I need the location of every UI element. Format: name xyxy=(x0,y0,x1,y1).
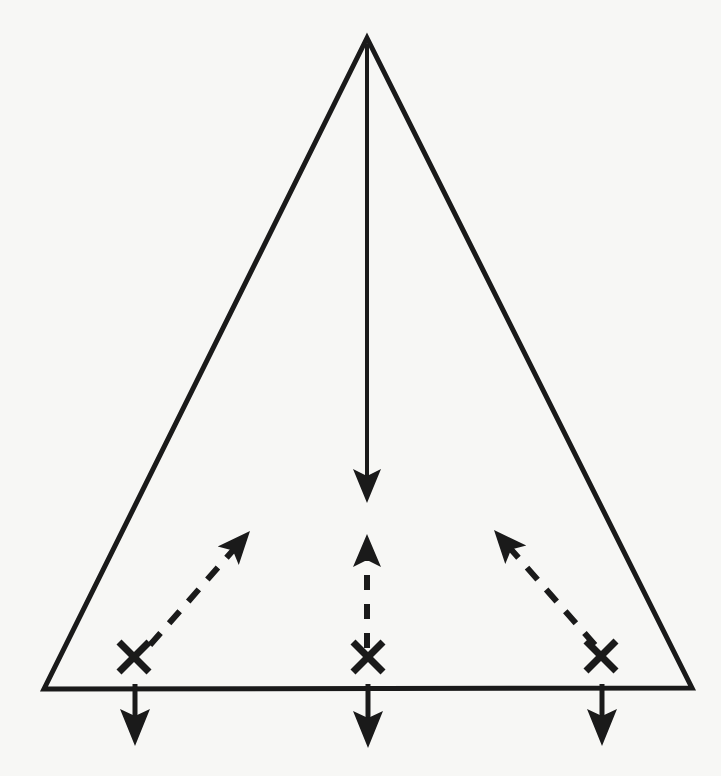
diagram-canvas xyxy=(0,0,721,776)
triangle-flow-diagram xyxy=(0,0,721,776)
